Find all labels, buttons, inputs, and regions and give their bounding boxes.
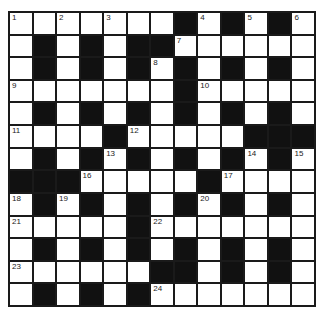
grid-cell[interactable]: 17 — [222, 171, 244, 192]
grid-cell[interactable] — [222, 284, 244, 305]
grid-cell[interactable] — [245, 239, 267, 260]
grid-cell[interactable]: 19 — [57, 194, 79, 215]
grid-cell[interactable] — [222, 126, 244, 147]
grid-cell[interactable] — [34, 81, 56, 102]
grid-cell[interactable] — [151, 239, 173, 260]
grid-cell[interactable] — [128, 13, 150, 34]
grid-cell[interactable] — [10, 103, 32, 124]
grid-cell[interactable]: 15 — [292, 149, 314, 170]
grid-cell[interactable]: 6 — [292, 13, 314, 34]
grid-cell[interactable] — [198, 103, 220, 124]
grid-cell[interactable] — [128, 262, 150, 283]
grid-cell[interactable] — [10, 149, 32, 170]
grid-cell[interactable] — [104, 171, 126, 192]
grid-cell[interactable] — [245, 103, 267, 124]
grid-cell[interactable] — [151, 149, 173, 170]
grid-cell[interactable]: 2 — [57, 13, 79, 34]
grid-cell[interactable] — [104, 36, 126, 57]
grid-cell[interactable]: 23 — [10, 262, 32, 283]
grid-cell[interactable] — [81, 126, 103, 147]
grid-cell[interactable] — [292, 36, 314, 57]
grid-cell[interactable] — [245, 36, 267, 57]
grid-cell[interactable] — [34, 262, 56, 283]
grid-cell[interactable] — [175, 217, 197, 238]
grid-cell[interactable]: 22 — [151, 217, 173, 238]
grid-cell[interactable] — [81, 81, 103, 102]
grid-cell[interactable] — [292, 217, 314, 238]
grid-cell[interactable] — [104, 103, 126, 124]
grid-cell[interactable]: 4 — [198, 13, 220, 34]
grid-cell[interactable] — [128, 171, 150, 192]
grid-cell[interactable] — [222, 217, 244, 238]
grid-cell[interactable] — [292, 262, 314, 283]
grid-cell[interactable] — [292, 103, 314, 124]
grid-cell[interactable] — [198, 284, 220, 305]
grid-cell[interactable] — [198, 239, 220, 260]
grid-cell[interactable] — [104, 262, 126, 283]
grid-cell[interactable]: 12 — [128, 126, 150, 147]
grid-cell[interactable]: 3 — [104, 13, 126, 34]
grid-cell[interactable] — [222, 36, 244, 57]
grid-cell[interactable] — [198, 149, 220, 170]
grid-cell[interactable] — [151, 103, 173, 124]
grid-cell[interactable] — [57, 239, 79, 260]
grid-cell[interactable] — [245, 171, 267, 192]
grid-cell[interactable] — [245, 58, 267, 79]
grid-cell[interactable] — [104, 58, 126, 79]
grid-cell[interactable] — [81, 262, 103, 283]
grid-cell[interactable] — [104, 284, 126, 305]
grid-cell[interactable] — [34, 217, 56, 238]
grid-cell[interactable]: 13 — [104, 149, 126, 170]
grid-cell[interactable] — [104, 194, 126, 215]
grid-cell[interactable] — [151, 126, 173, 147]
grid-cell[interactable] — [292, 171, 314, 192]
grid-cell[interactable] — [57, 284, 79, 305]
grid-cell[interactable]: 10 — [198, 81, 220, 102]
grid-cell[interactable] — [269, 284, 291, 305]
grid-cell[interactable] — [245, 262, 267, 283]
grid-cell[interactable] — [57, 149, 79, 170]
grid-cell[interactable] — [198, 58, 220, 79]
grid-cell[interactable]: 1 — [10, 13, 32, 34]
grid-cell[interactable]: 9 — [10, 81, 32, 102]
grid-cell[interactable] — [81, 217, 103, 238]
grid-cell[interactable]: 18 — [10, 194, 32, 215]
grid-cell[interactable] — [57, 36, 79, 57]
grid-cell[interactable] — [57, 103, 79, 124]
grid-cell[interactable] — [198, 126, 220, 147]
grid-cell[interactable] — [292, 284, 314, 305]
grid-cell[interactable] — [151, 13, 173, 34]
grid-cell[interactable]: 7 — [175, 36, 197, 57]
grid-cell[interactable] — [269, 217, 291, 238]
grid-cell[interactable]: 8 — [151, 58, 173, 79]
grid-cell[interactable] — [198, 217, 220, 238]
grid-cell[interactable] — [10, 284, 32, 305]
grid-cell[interactable] — [198, 262, 220, 283]
grid-cell[interactable] — [292, 194, 314, 215]
grid-cell[interactable] — [292, 81, 314, 102]
grid-cell[interactable] — [245, 217, 267, 238]
grid-cell[interactable] — [269, 36, 291, 57]
grid-cell[interactable]: 14 — [245, 149, 267, 170]
grid-cell[interactable] — [104, 81, 126, 102]
grid-cell[interactable]: 24 — [151, 284, 173, 305]
grid-cell[interactable]: 16 — [81, 171, 103, 192]
grid-cell[interactable] — [151, 171, 173, 192]
grid-cell[interactable] — [57, 217, 79, 238]
grid-cell[interactable] — [57, 262, 79, 283]
grid-cell[interactable]: 21 — [10, 217, 32, 238]
grid-cell[interactable] — [57, 81, 79, 102]
grid-cell[interactable] — [245, 194, 267, 215]
grid-cell[interactable] — [151, 194, 173, 215]
grid-cell[interactable] — [269, 81, 291, 102]
grid-cell[interactable] — [104, 239, 126, 260]
grid-cell[interactable] — [175, 126, 197, 147]
grid-cell[interactable] — [175, 171, 197, 192]
grid-cell[interactable] — [57, 58, 79, 79]
grid-cell[interactable] — [269, 171, 291, 192]
grid-cell[interactable] — [10, 36, 32, 57]
grid-cell[interactable] — [34, 13, 56, 34]
grid-cell[interactable] — [175, 284, 197, 305]
grid-cell[interactable] — [245, 81, 267, 102]
grid-cell[interactable] — [292, 58, 314, 79]
